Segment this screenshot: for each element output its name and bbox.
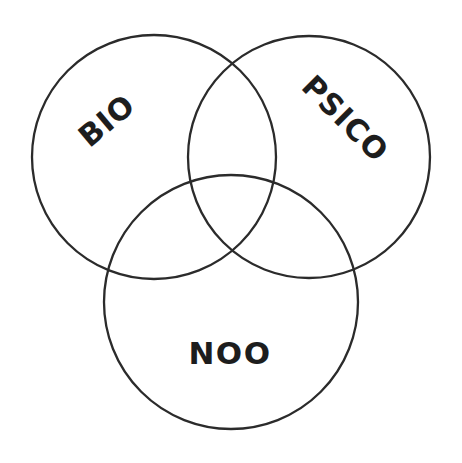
venn-diagram-canvas: BIO PSICO NOO: [0, 0, 462, 463]
venn-diagram: BIO PSICO NOO: [0, 0, 462, 463]
venn-label-noo: NOO: [188, 335, 271, 371]
